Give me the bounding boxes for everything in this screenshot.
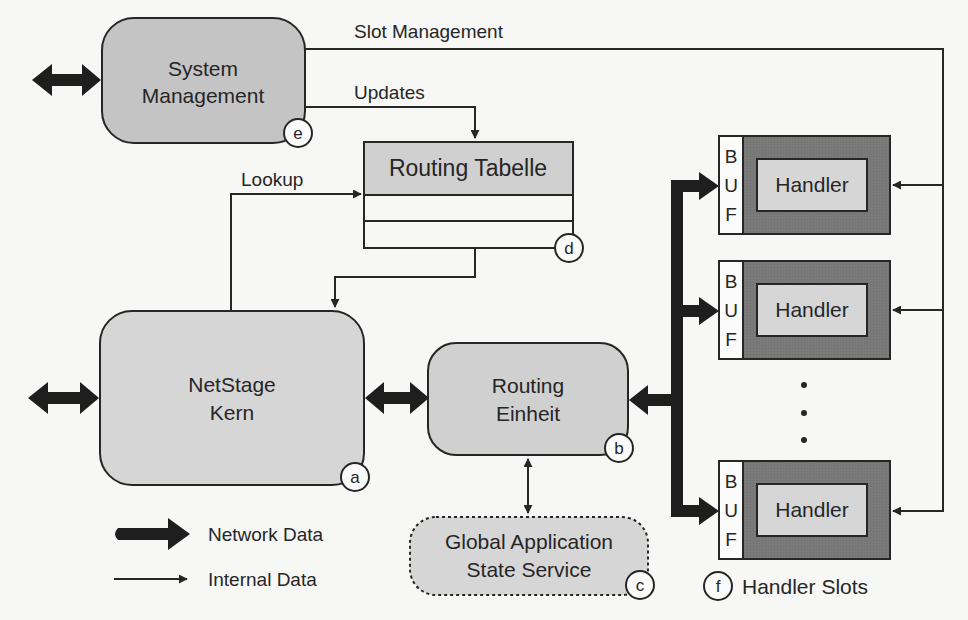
tag-b-label: b: [614, 439, 623, 458]
netstage-external-io-arrow: [28, 382, 99, 414]
slot-management-label: Slot Management: [354, 21, 504, 42]
handler-label: Handler: [775, 173, 849, 196]
more-slots-ellipsis: [801, 382, 807, 443]
handler-slot-3[interactable]: B U F Handler: [719, 461, 890, 559]
buffer-letter: U: [724, 175, 738, 196]
updates-edge: Updates: [305, 82, 475, 138]
bus-to-slot2-arrow: [699, 297, 719, 325]
system-management-line2: Management: [142, 84, 265, 107]
lookup-result-edge: [335, 248, 475, 307]
updates-label: Updates: [354, 82, 425, 103]
network-data-legend-label: Network Data: [208, 524, 324, 545]
bus-to-routing-arrow: [629, 385, 677, 415]
routing-unit-node[interactable]: Routing Einheit b: [428, 343, 633, 462]
netstage-core-line2: Kern: [210, 401, 254, 424]
handler-label: Handler: [775, 298, 849, 321]
handler-slots-label: Handler Slots: [742, 575, 868, 598]
internal-data-legend-label: Internal Data: [208, 569, 317, 590]
core-routing-io-arrow: [365, 382, 429, 414]
routing-unit-line1: Routing: [492, 374, 564, 397]
tag-d-label: d: [564, 239, 573, 258]
network-data-legend-icon: [115, 518, 190, 550]
tag-e-label: e: [293, 124, 302, 143]
tag-c-label: c: [636, 576, 645, 595]
system-management-node[interactable]: System Management e: [102, 18, 312, 147]
buffer-letter: F: [725, 529, 737, 550]
legend: Network Data Internal Data: [114, 518, 324, 590]
system-management-io-arrow: [32, 64, 101, 96]
routing-table-title: Routing Tabelle: [389, 155, 547, 181]
buffer-letter: B: [725, 146, 738, 167]
handler-slot-1[interactable]: B U F Handler: [719, 136, 890, 234]
routing-unit-line2: Einheit: [496, 402, 560, 425]
buffer-letter: F: [725, 329, 737, 350]
network-bus: [629, 172, 719, 525]
handler-slots-caption: f Handler Slots: [704, 572, 868, 600]
system-management-line1: System: [168, 57, 238, 80]
handler-slot-2[interactable]: B U F Handler: [719, 261, 890, 359]
global-state-service-node[interactable]: Global Application State Service c: [410, 517, 654, 599]
global-state-line2: State Service: [467, 558, 592, 581]
routing-table-node[interactable]: Routing Tabelle d: [364, 142, 583, 262]
lookup-label: Lookup: [241, 169, 303, 190]
handler-label: Handler: [775, 498, 849, 521]
lookup-edge: Lookup: [231, 169, 361, 310]
tag-a-label: a: [350, 468, 360, 487]
routing-table-row-1: [364, 195, 573, 221]
netstage-core-line1: NetStage: [188, 373, 276, 396]
architecture-diagram: Slot Management Updates Lookup System Ma…: [0, 0, 968, 620]
routing-table-row-2: [364, 221, 573, 248]
buffer-letter: B: [725, 271, 738, 292]
buffer-letter: F: [725, 204, 737, 225]
buffer-letter: B: [725, 471, 738, 492]
bus-to-slot1-arrow: [699, 172, 719, 200]
buffer-letter: U: [724, 300, 738, 321]
buffer-letter: U: [724, 500, 738, 521]
tag-f-label: f: [716, 577, 721, 596]
global-state-line1: Global Application: [445, 530, 613, 553]
bus-to-slot3-arrow: [699, 497, 719, 525]
netstage-core-node[interactable]: NetStage Kern a: [100, 311, 369, 491]
